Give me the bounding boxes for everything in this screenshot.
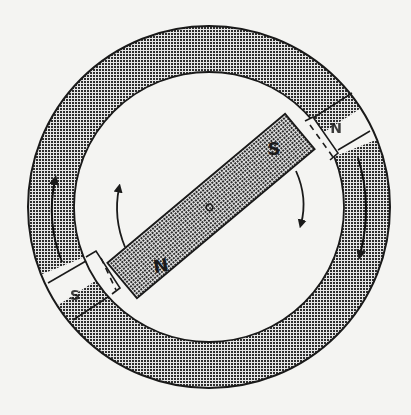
rotation-arrow-left-icon (117, 188, 125, 247)
stator-pole-north-label: N (330, 120, 342, 136)
stator-pole-south-label: S (70, 287, 80, 303)
rotor-bar-magnet (107, 114, 314, 298)
rotation-arrow-right-icon (296, 171, 304, 224)
magnet-rotor-diagram: N S N S (0, 0, 411, 415)
rotor-south-label: S (268, 138, 281, 159)
